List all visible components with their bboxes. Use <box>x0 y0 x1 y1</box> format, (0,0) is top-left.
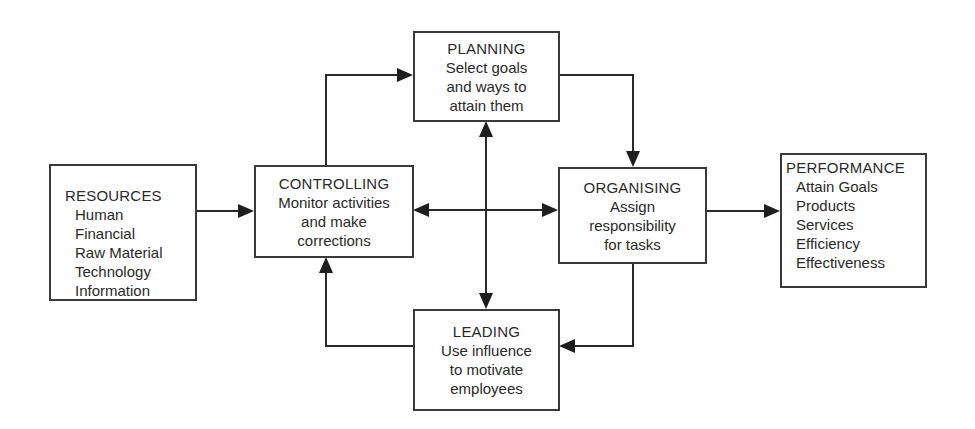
arrowhead-right-icon <box>764 204 780 218</box>
arrow-organising-to-leading <box>573 263 633 346</box>
controlling-box: CONTROLLING Monitor activities and make … <box>254 165 414 258</box>
performance-item: Products <box>786 196 925 215</box>
arrowhead-up-icon <box>319 257 333 273</box>
controlling-line: Monitor activities <box>256 193 412 212</box>
performance-item: Effectiveness <box>786 253 925 272</box>
controlling-line: corrections <box>256 231 412 250</box>
arrow-planning-to-organising <box>559 75 633 153</box>
performance-box: PERFORMANCE Attain Goals Products Servic… <box>780 153 927 288</box>
arrow-leading-to-controlling <box>326 271 413 346</box>
performance-item: Services <box>786 215 925 234</box>
arrowhead-right-icon <box>397 68 413 82</box>
arrowhead-down-icon <box>626 151 640 167</box>
arrowhead-up-icon <box>479 121 493 137</box>
controlling-line: and make <box>256 212 412 231</box>
planning-title: PLANNING <box>415 39 558 58</box>
resources-item: Information <box>65 281 195 300</box>
arrowhead-right-icon <box>542 203 558 217</box>
planning-line: and ways to <box>415 77 558 96</box>
organising-box: ORGANISING Assign responsibility for tas… <box>558 167 707 264</box>
arrow-controlling-to-planning <box>326 75 399 165</box>
organising-title: ORGANISING <box>560 178 705 197</box>
planning-line: Select goals <box>415 58 558 77</box>
planning-line: attain them <box>415 96 558 115</box>
organising-line: Assign <box>560 197 705 216</box>
performance-item: Efficiency <box>786 234 925 253</box>
resources-item: Financial <box>65 224 195 243</box>
leading-box: LEADING Use influence to motivate employ… <box>413 309 560 411</box>
arrowhead-down-icon <box>479 293 493 309</box>
controlling-title: CONTROLLING <box>256 174 412 193</box>
resources-box: RESOURCES Human Financial Raw Material T… <box>49 164 197 301</box>
resources-item: Technology <box>65 262 195 281</box>
leading-line: employees <box>415 379 558 398</box>
resources-title: RESOURCES <box>65 186 195 205</box>
resources-item: Raw Material <box>65 243 195 262</box>
arrowhead-right-icon <box>238 204 254 218</box>
leading-line: Use influence <box>415 341 558 360</box>
planning-box: PLANNING Select goals and ways to attain… <box>413 31 560 122</box>
performance-title: PERFORMANCE <box>786 158 925 177</box>
organising-line: responsibility <box>560 216 705 235</box>
performance-item: Attain Goals <box>786 177 925 196</box>
organising-line: for tasks <box>560 235 705 254</box>
arrowhead-left-icon <box>559 339 575 353</box>
management-process-diagram: RESOURCES Human Financial Raw Material T… <box>0 0 975 429</box>
resources-item: Human <box>65 205 195 224</box>
leading-line: to motivate <box>415 360 558 379</box>
leading-title: LEADING <box>415 322 558 341</box>
arrowhead-left-icon <box>413 203 429 217</box>
